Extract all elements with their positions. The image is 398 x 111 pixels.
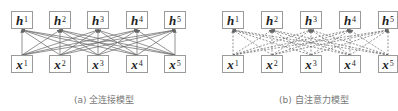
node-sub: 3 — [100, 16, 104, 24]
node-var: h — [169, 14, 176, 27]
output-node-h3: h3 — [300, 11, 322, 29]
node-sub: 5 — [177, 60, 181, 68]
output-node-h2: h2 — [49, 11, 71, 29]
node-var: h — [305, 14, 312, 27]
output-node-h5: h5 — [164, 11, 186, 29]
output-node-h3: h3 — [87, 11, 109, 29]
node-sub: 4 — [352, 16, 356, 24]
caption-self-attention: (b) 自注意力模型 — [279, 93, 349, 106]
node-var: x — [92, 58, 99, 71]
node-sub: 1 — [24, 16, 28, 24]
node-var: x — [54, 58, 61, 71]
input-node-x2: x2 — [261, 55, 283, 73]
node-sub: 3 — [313, 16, 317, 24]
input-node-x2: x2 — [49, 55, 71, 73]
panel-self-attention: h1 h2 h3 h4 h5 x1 x2 x3 x4 x5 (b) 自注意力模型 — [199, 0, 398, 111]
node-var: h — [92, 14, 99, 27]
node-var: h — [131, 14, 138, 27]
node-sub: 2 — [62, 60, 66, 68]
input-node-x4: x4 — [339, 55, 361, 73]
output-node-h4: h4 — [339, 11, 361, 29]
node-sub: 2 — [274, 60, 278, 68]
output-node-h1: h1 — [11, 11, 33, 29]
node-var: h — [16, 14, 23, 27]
node-var: h — [382, 14, 389, 27]
node-sub: 5 — [177, 16, 181, 24]
node-var: x — [266, 58, 273, 71]
node-var: x — [169, 58, 176, 71]
node-sub: 1 — [235, 16, 239, 24]
node-var: x — [344, 58, 351, 71]
input-node-x5: x5 — [378, 55, 398, 73]
node-var: h — [227, 14, 234, 27]
output-node-h1: h1 — [222, 11, 244, 29]
node-var: x — [382, 58, 389, 71]
input-node-x3: x3 — [87, 55, 109, 73]
input-node-x1: x1 — [11, 55, 33, 73]
node-var: x — [305, 58, 312, 71]
output-node-h4: h4 — [126, 11, 148, 29]
node-sub: 5 — [390, 60, 394, 68]
node-var: x — [16, 58, 23, 71]
node-sub: 1 — [235, 60, 239, 68]
node-var: h — [344, 14, 351, 27]
node-var: x — [131, 58, 138, 71]
node-sub: 4 — [139, 60, 143, 68]
node-sub: 3 — [313, 60, 317, 68]
output-node-h2: h2 — [261, 11, 283, 29]
input-node-x4: x4 — [126, 55, 148, 73]
output-node-h5: h5 — [378, 11, 398, 29]
node-sub: 4 — [352, 60, 356, 68]
node-sub: 2 — [274, 16, 278, 24]
input-node-x5: x5 — [164, 55, 186, 73]
node-sub: 4 — [139, 16, 143, 24]
node-var: h — [266, 14, 273, 27]
node-sub: 3 — [100, 60, 104, 68]
node-var: x — [227, 58, 234, 71]
node-sub: 2 — [62, 16, 66, 24]
input-node-x3: x3 — [300, 55, 322, 73]
input-node-x1: x1 — [222, 55, 244, 73]
panel-fully-connected: h1 h2 h3 h4 h5 x1 x2 x3 x4 x5 (a) 全连接模型 — [0, 0, 199, 111]
node-sub: 1 — [24, 60, 28, 68]
caption-fully-connected: (a) 全连接模型 — [74, 93, 134, 106]
node-var: h — [54, 14, 61, 27]
node-sub: 5 — [390, 16, 394, 24]
